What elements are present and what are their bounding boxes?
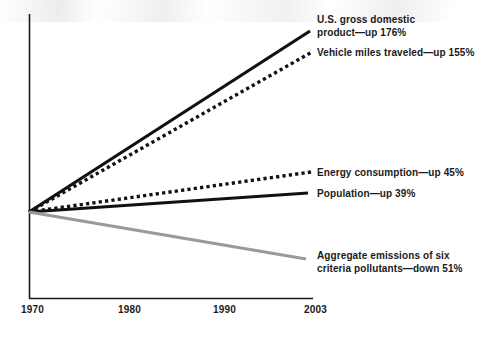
chart-container: 1970 1980 1990 2003 U.S. gross domestic …: [0, 0, 492, 337]
series-label-population: Population—up 39%: [317, 187, 415, 200]
series-label-energy-consumption: Energy consumption—up 45%: [317, 166, 464, 179]
series-line-energy-consumption: [29, 172, 311, 212]
x-tick-label-1970: 1970: [21, 304, 44, 315]
series-label-aggregate-emissions: Aggregate emissions of six criteria poll…: [317, 249, 463, 275]
series-label-gdp: U.S. gross domestic product—up 176%: [317, 13, 415, 39]
x-tick-label-1980: 1980: [118, 304, 141, 315]
x-tick-label-2003: 2003: [304, 304, 327, 315]
series-line-aggregate-emissions: [29, 212, 306, 259]
series-line-gdp: [29, 31, 310, 212]
x-tick-label-1990: 1990: [213, 304, 236, 315]
series-label-vehicle-miles-traveled: Vehicle miles traveled—up 155%: [317, 46, 475, 59]
series-line-population: [29, 193, 308, 212]
series-line-vehicle-miles-traveled: [29, 52, 312, 212]
